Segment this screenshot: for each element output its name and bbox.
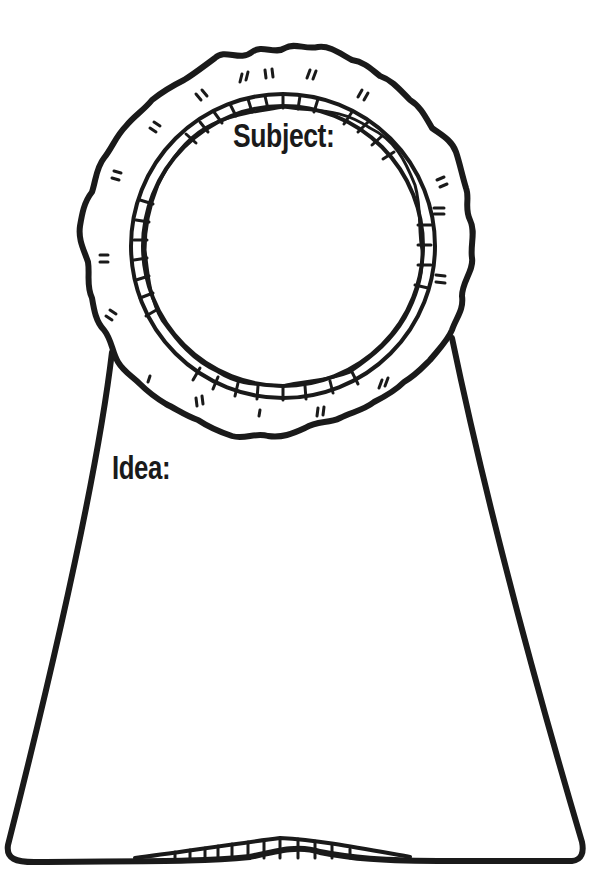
subject-label: Subject: bbox=[233, 116, 334, 155]
ribbon-worksheet: Subject: Idea: bbox=[0, 0, 599, 872]
idea-writing-area[interactable] bbox=[60, 495, 540, 825]
subject-writing-area[interactable] bbox=[145, 160, 420, 360]
idea-label: Idea: bbox=[112, 449, 170, 487]
